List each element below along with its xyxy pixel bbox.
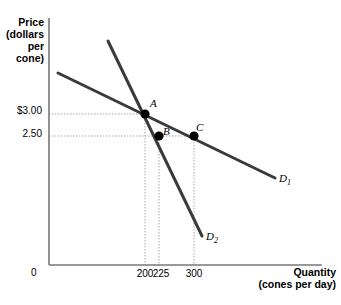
data-point-a[interactable] <box>140 109 149 118</box>
curve-label-d2: D2 <box>206 230 218 245</box>
x-tick-label-300: 300 <box>179 268 209 279</box>
demand-curve-d2 <box>108 41 202 236</box>
y-axis-title: Price (dollars per cone) <box>0 16 44 64</box>
origin-label: 0 <box>31 267 37 278</box>
curve-label-d1: D1 <box>279 172 291 187</box>
demand-curve-chart: Price (dollars per cone) Quantity (cones… <box>0 0 341 305</box>
y-tick-label-250: 2.50 <box>0 128 42 139</box>
chart-plot-area <box>0 0 341 305</box>
curve-label-d2-text: D <box>206 230 214 242</box>
curve-label-d2-subscript: 2 <box>214 236 218 245</box>
curve-label-d1-subscript: 1 <box>287 178 291 187</box>
x-tick-label-225: 225 <box>146 268 176 279</box>
x-axis-title: Quantity (cones per day) <box>200 266 336 290</box>
point-label-b: B <box>163 125 170 137</box>
y-tick-label-300: $3.00 <box>0 105 42 116</box>
point-label-c: C <box>196 121 203 133</box>
point-label-a: A <box>150 97 157 109</box>
curve-label-d1-text: D <box>279 172 287 184</box>
